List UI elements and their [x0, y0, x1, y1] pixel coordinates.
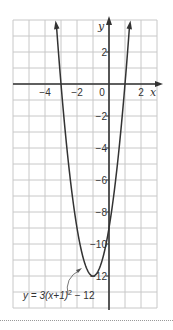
y-tick-label: −4 [96, 143, 108, 154]
x-axis-label: x [150, 86, 157, 99]
x-tick-label: 0 [99, 87, 105, 98]
bottom-divider [0, 320, 173, 321]
x-tick-labels: −4−202 [39, 87, 144, 98]
graph: −4−202 2−2−4−6−8−10−12 x y y = 3(x+1)2 −… [0, 0, 173, 330]
x-tick-label: −2 [71, 87, 83, 98]
y-axis [106, 16, 112, 310]
y-tick-label: −8 [96, 207, 108, 218]
y-tick-label: −6 [96, 175, 108, 186]
x-tick-label: −4 [39, 87, 51, 98]
equation-label: y = 3(x+1)2 − 12 [22, 289, 95, 301]
y-tick-label: −2 [96, 111, 108, 122]
x-tick-label: 2 [138, 87, 144, 98]
y-axis-label: y [97, 20, 105, 33]
